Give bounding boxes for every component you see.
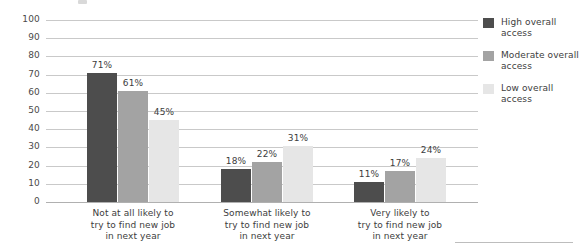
bar (283, 146, 313, 202)
bar-value-label: 45% (144, 108, 184, 117)
chart-legend: High overallaccess Moderate overallacces… (483, 17, 583, 116)
y-axis-tick-label: 10 (6, 179, 40, 188)
y-axis-tick-label: 70 (6, 70, 40, 79)
bar (87, 73, 117, 202)
y-axis-tick-label: 60 (6, 88, 40, 97)
bar-value-label: 31% (278, 134, 318, 143)
y-axis-tick-label: 40 (6, 124, 40, 133)
bar-value-label: 71% (82, 61, 122, 70)
gridline (46, 38, 478, 39)
y-axis-tick-label: 80 (6, 51, 40, 60)
bar (385, 171, 415, 202)
legend-label-low-overall-access: Low overallaccess (501, 83, 583, 105)
y-axis-tick-label: 0 (6, 197, 40, 206)
bar (149, 120, 179, 202)
y-axis-tick-label: 20 (6, 161, 40, 170)
gridline (46, 20, 478, 21)
grouped-bar-chart: Percentage High overallaccess Moderate o… (0, 0, 587, 250)
bar (416, 158, 446, 202)
legend-swatch-moderate-overall-access (483, 51, 494, 61)
legend-swatch-high-overall-access (483, 18, 494, 28)
legend-item[interactable]: High overallaccess (483, 17, 583, 39)
plot-area (46, 20, 478, 202)
legend-item[interactable]: Moderate overallaccess (483, 50, 583, 72)
bar-value-label: 11% (349, 170, 389, 179)
bar-value-label: 24% (411, 146, 451, 155)
y-axis-tick-label: 30 (6, 142, 40, 151)
bar-value-label: 22% (247, 150, 287, 159)
gridline (46, 56, 478, 57)
x-axis-category-label: Not at all likely totry to find new jobi… (73, 208, 193, 243)
legend-item[interactable]: Low overallaccess (483, 83, 583, 105)
y-axis-tick-label: 100 (6, 15, 40, 24)
footer-rule (455, 242, 573, 243)
bar-value-label: 61% (113, 79, 153, 88)
bar-value-label: 17% (380, 159, 420, 168)
bar (252, 162, 282, 202)
y-axis-tick-label: 90 (6, 33, 40, 42)
y-axis-tick-label: 50 (6, 106, 40, 115)
bar (354, 182, 384, 202)
x-axis-category-label: Very likely totry to find new jobin next… (340, 208, 460, 243)
legend-swatch-low-overall-access (483, 84, 494, 94)
legend-label-high-overall-access: High overallaccess (501, 17, 583, 39)
legend-label-moderate-overall-access: Moderate overallaccess (501, 50, 583, 72)
x-axis-category-label: Somewhat likely totry to find new jobin … (207, 208, 327, 243)
gridline (46, 202, 478, 203)
bar (221, 169, 251, 202)
